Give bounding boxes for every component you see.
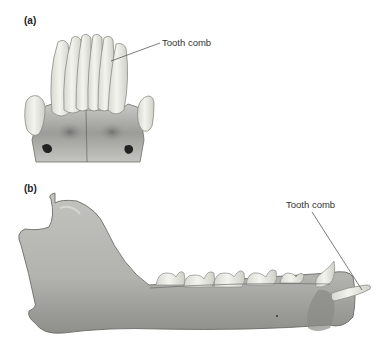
figure-canvas [0,0,392,352]
callout-tooth-comb-b: Tooth comb [286,199,335,210]
mandible-lateral-bone [19,193,355,333]
panel-a-illustration [25,34,160,162]
panel-b-illustration [19,193,371,333]
tooth-comb-a [51,34,128,116]
panel-label-b: (b) [24,183,37,194]
panel-label-a: (a) [24,15,36,26]
callout-tooth-comb-a: Tooth comb [162,37,211,48]
canine-right [138,96,155,131]
